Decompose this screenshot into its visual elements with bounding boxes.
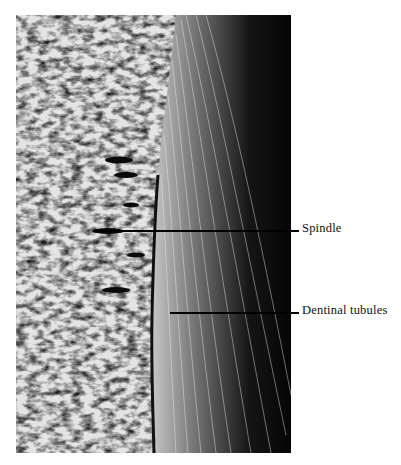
- label-dentinal-tubules: Dentinal tubules: [302, 303, 387, 318]
- label-spindle: Spindle: [302, 221, 342, 236]
- figure: Spindle Dentinal tubules: [0, 0, 401, 465]
- spindle-leader-line: [95, 230, 294, 232]
- dentinal-tubules-leader-line: [170, 312, 294, 314]
- dentinal-tubules-tick: [292, 312, 299, 314]
- micrograph-image: [16, 15, 291, 453]
- spindle-tick: [292, 230, 299, 232]
